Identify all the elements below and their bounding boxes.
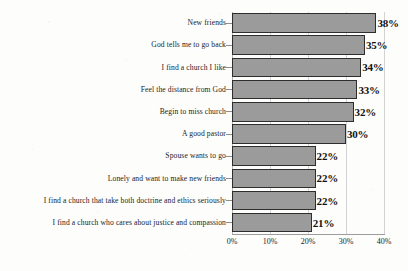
bar-track: 22% <box>232 169 384 189</box>
category-label: God tells me to go back <box>0 41 226 49</box>
bar-value-label: 32% <box>355 106 376 118</box>
category-label: Lonely and want to make new friends <box>0 175 226 183</box>
bar-row: I find a church who cares about justice … <box>0 212 408 234</box>
x-axis-tick-labels: 0%10%20%30%40% <box>232 237 384 251</box>
bar-value-label: 21% <box>313 217 334 229</box>
bar[interactable] <box>232 124 346 144</box>
bar-track: 32% <box>232 102 384 122</box>
bar[interactable] <box>232 102 354 122</box>
bar-row: New friends38% <box>0 12 408 34</box>
category-label: New friends <box>0 19 226 27</box>
bar[interactable] <box>232 213 312 233</box>
bar[interactable] <box>232 80 357 100</box>
bar-value-label: 34% <box>362 61 383 73</box>
bar-track: 22% <box>232 191 384 211</box>
bar[interactable] <box>232 35 365 55</box>
bar[interactable] <box>232 191 316 211</box>
bar-row: Feel the distance from God33% <box>0 79 408 101</box>
bar-row: I find a church that take both doctrine … <box>0 190 408 212</box>
bar-value-label: 22% <box>317 172 338 184</box>
bar-value-label: 35% <box>366 39 387 51</box>
bar-row: I find a church I like34% <box>0 56 408 78</box>
bar-row: Spouse wants to go22% <box>0 145 408 167</box>
x-tick-label: 10% <box>263 237 278 246</box>
bar-value-label: 22% <box>317 195 338 207</box>
horizontal-bar-chart: New friends38%God tells me to go back35%… <box>0 0 408 271</box>
bar-track: 21% <box>232 213 384 233</box>
bar-value-label: 30% <box>347 128 368 140</box>
bar[interactable] <box>232 58 361 78</box>
bar-value-label: 38% <box>377 17 398 29</box>
category-label: Spouse wants to go <box>0 152 226 160</box>
x-tick-label: 0% <box>227 237 238 246</box>
bar-track: 33% <box>232 80 384 100</box>
bar-row: A good pastor30% <box>0 123 408 145</box>
x-tick-label: 30% <box>339 237 354 246</box>
category-label: I find a church I like <box>0 64 226 72</box>
category-label: I find a church that take both doctrine … <box>0 197 226 205</box>
bar-track: 34% <box>232 58 384 78</box>
bar-rows: New friends38%God tells me to go back35%… <box>0 12 408 234</box>
category-label: Feel the distance from God <box>0 86 226 94</box>
bar-track: 22% <box>232 146 384 166</box>
bar-row: God tells me to go back35% <box>0 34 408 56</box>
bar-track: 35% <box>232 35 384 55</box>
x-tick-label: 40% <box>377 237 392 246</box>
x-axis-line <box>232 234 385 235</box>
category-label: Begin to miss church <box>0 108 226 116</box>
bar-row: Lonely and want to make new friends22% <box>0 167 408 189</box>
bar-value-label: 22% <box>317 150 338 162</box>
bar-value-label: 33% <box>358 84 379 96</box>
x-tick-label: 20% <box>301 237 316 246</box>
category-label: I find a church who cares about justice … <box>0 219 226 227</box>
bar[interactable] <box>232 146 316 166</box>
bar[interactable] <box>232 13 376 33</box>
bar-track: 38% <box>232 13 384 33</box>
bar-row: Begin to miss church32% <box>0 101 408 123</box>
bar[interactable] <box>232 169 316 189</box>
category-label: A good pastor <box>0 130 226 138</box>
bar-track: 30% <box>232 124 384 144</box>
